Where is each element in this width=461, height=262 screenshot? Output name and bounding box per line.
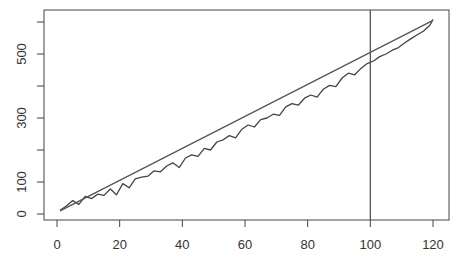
y-tick-label: 0 [14, 210, 29, 217]
x-tick-label: 0 [53, 237, 60, 252]
line-chart: 0100300500 020406080100120 [0, 0, 461, 262]
y-axis: 0100300500 [14, 22, 44, 218]
x-tick-label: 120 [422, 237, 444, 252]
series-fitted [60, 20, 433, 210]
x-tick-label: 100 [359, 237, 381, 252]
x-tick-label: 40 [175, 237, 189, 252]
x-axis: 020406080100120 [53, 220, 443, 252]
x-tick-label: 20 [112, 237, 126, 252]
x-tick-label: 60 [238, 237, 252, 252]
y-tick-label: 300 [14, 107, 29, 129]
data-series [60, 19, 433, 210]
y-tick-label: 500 [14, 43, 29, 65]
x-tick-label: 80 [300, 237, 314, 252]
y-tick-label: 100 [14, 171, 29, 193]
